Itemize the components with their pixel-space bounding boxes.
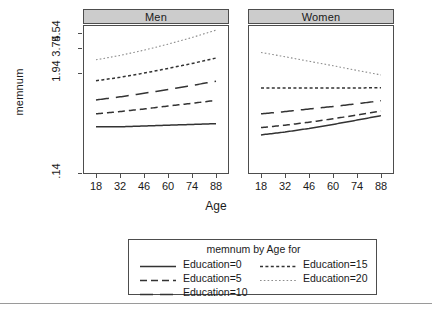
series-line-education-10 xyxy=(96,81,216,100)
legend-line-swatch xyxy=(139,287,177,300)
series-line-education-0 xyxy=(96,124,216,127)
legend-label: Education=15 xyxy=(303,258,368,270)
x-tick-mark xyxy=(120,174,121,178)
x-tick-label: 32 xyxy=(273,180,297,192)
x-tick-label: 18 xyxy=(84,180,108,192)
x-tick-mark xyxy=(333,174,334,178)
x-tick-mark xyxy=(285,174,286,178)
series-line-education-5 xyxy=(96,100,216,113)
legend-label: Education=10 xyxy=(183,286,248,298)
y-tick-label: .14 xyxy=(50,154,62,188)
panel-men xyxy=(83,25,229,174)
series-line-education-15 xyxy=(96,58,216,81)
panel-strip-men-label: Men xyxy=(145,11,167,23)
legend-title: memnum by Age for xyxy=(129,243,378,255)
panel-plot-area xyxy=(84,26,228,173)
x-tick-label: 18 xyxy=(249,180,273,192)
panel-strip-men: Men xyxy=(83,9,229,24)
x-tick-mark xyxy=(309,174,310,178)
chart-canvas: memnum .141.943.745.54 Men Women 1832466… xyxy=(0,0,432,311)
legend-line-swatch xyxy=(139,259,177,272)
legend-label: Education=5 xyxy=(183,272,242,284)
y-axis-title: memnum xyxy=(13,52,25,132)
panel-strip-women: Women xyxy=(248,9,394,24)
x-tick-mark xyxy=(216,174,217,178)
legend: memnum by Age for Education=0Education=5… xyxy=(128,239,377,295)
x-tick-label: 74 xyxy=(180,180,204,192)
panel-women xyxy=(248,25,394,174)
series-line-education-10 xyxy=(261,101,381,114)
legend-label: Education=20 xyxy=(303,272,368,284)
x-tick-label: 46 xyxy=(132,180,156,192)
series-line-education-20 xyxy=(261,52,381,75)
bottom-divider xyxy=(0,303,432,304)
legend-line-swatch xyxy=(259,273,297,286)
x-tick-mark xyxy=(192,174,193,178)
series-line-education-0 xyxy=(261,116,381,135)
x-tick-label: 32 xyxy=(108,180,132,192)
legend-line-swatch xyxy=(259,259,297,272)
x-tick-mark xyxy=(96,174,97,178)
x-tick-label: 46 xyxy=(297,180,321,192)
x-tick-mark xyxy=(144,174,145,178)
y-tick-mark xyxy=(78,173,82,174)
legend-line-swatch xyxy=(139,273,177,286)
x-tick-label: 60 xyxy=(321,180,345,192)
x-tick-label: 74 xyxy=(345,180,369,192)
y-tick-mark xyxy=(78,48,82,49)
series-line-education-20 xyxy=(96,30,216,60)
panel-plot-area xyxy=(249,26,393,173)
legend-label: Education=0 xyxy=(183,258,242,270)
x-tick-mark xyxy=(168,174,169,178)
x-tick-mark xyxy=(381,174,382,178)
x-tick-label: 60 xyxy=(156,180,180,192)
x-tick-label: 88 xyxy=(369,180,393,192)
x-tick-mark xyxy=(357,174,358,178)
panel-strip-women-label: Women xyxy=(302,11,341,23)
y-tick-mark xyxy=(78,33,82,34)
x-tick-mark xyxy=(261,174,262,178)
y-tick-mark xyxy=(78,73,82,74)
x-tick-label: 88 xyxy=(204,180,228,192)
x-axis-title: Age xyxy=(0,199,432,213)
y-tick-label: 5.54 xyxy=(50,14,62,48)
